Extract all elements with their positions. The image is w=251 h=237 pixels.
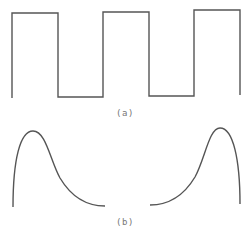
diagram-canvas (0, 0, 251, 237)
square-wave-path (12, 10, 240, 98)
caption-a: (a) (105, 108, 145, 118)
right-pulse-curve (150, 128, 240, 205)
left-pulse-curve (13, 131, 105, 207)
caption-b: (b) (105, 217, 145, 227)
